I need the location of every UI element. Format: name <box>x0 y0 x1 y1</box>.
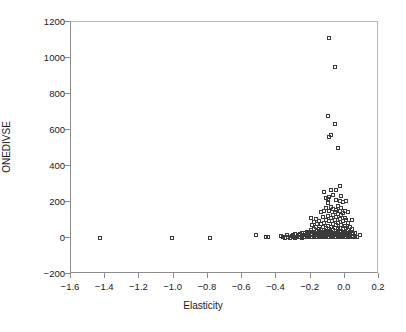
data-point <box>338 184 342 188</box>
data-point <box>98 236 102 240</box>
data-point <box>254 233 258 237</box>
x-axis-tick <box>173 273 174 278</box>
x-axis-tick-label: −1.0 <box>163 281 182 292</box>
y-axis-tick-label: 0 <box>25 232 65 243</box>
y-axis-tick-label: 400 <box>25 160 65 171</box>
x-axis-tick-label: −0.8 <box>197 281 216 292</box>
y-axis-tick-label: 1200 <box>25 16 65 27</box>
data-point <box>358 233 362 237</box>
y-axis-tick <box>65 129 70 130</box>
plot-area <box>70 21 378 273</box>
y-axis-tick <box>65 57 70 58</box>
y-axis-tick <box>65 201 70 202</box>
y-axis-title: ONEDIVSE <box>1 121 12 173</box>
y-axis-tick <box>65 165 70 166</box>
x-axis-title: Elasticity <box>0 300 406 311</box>
data-point <box>170 236 174 240</box>
data-point <box>350 218 354 222</box>
data-point <box>333 122 337 126</box>
y-axis-tick-label: 1000 <box>25 52 65 63</box>
data-point <box>346 210 350 214</box>
scatter-plot-figure: ONEDIVSE Elasticity −2000200400600800100… <box>0 0 406 332</box>
y-axis-tick-label: 600 <box>25 124 65 135</box>
data-point <box>334 188 338 192</box>
data-point <box>326 114 330 118</box>
x-axis-tick-label: −1.4 <box>95 281 114 292</box>
x-axis-tick <box>310 273 311 278</box>
y-axis-tick <box>65 93 70 94</box>
y-axis-tick-label: −200 <box>25 268 65 279</box>
data-point <box>339 194 343 198</box>
data-point <box>322 190 326 194</box>
data-point <box>331 193 335 197</box>
x-axis-tick <box>70 273 71 278</box>
data-point <box>336 146 340 150</box>
y-axis-tick <box>65 21 70 22</box>
y-axis-tick <box>65 237 70 238</box>
data-points-layer <box>71 22 377 272</box>
x-axis-tick-label: 0.0 <box>337 281 350 292</box>
x-axis-tick-label: −0.2 <box>300 281 319 292</box>
data-point <box>329 133 333 137</box>
x-axis-tick <box>104 273 105 278</box>
x-axis-tick <box>344 273 345 278</box>
x-axis-tick-label: −1.2 <box>129 281 148 292</box>
x-axis-tick-label: −0.4 <box>266 281 285 292</box>
x-axis-tick <box>138 273 139 278</box>
y-axis-tick-label: 200 <box>25 196 65 207</box>
data-point <box>327 36 331 40</box>
x-axis-tick-label: −0.6 <box>232 281 251 292</box>
x-axis-tick <box>275 273 276 278</box>
data-point <box>329 188 333 192</box>
data-point <box>344 199 348 203</box>
x-axis-tick-label: −1.6 <box>61 281 80 292</box>
data-point <box>266 235 270 239</box>
y-axis-tick-label: 800 <box>25 88 65 99</box>
x-axis-tick <box>207 273 208 278</box>
data-point <box>333 65 337 69</box>
data-point <box>208 236 212 240</box>
x-axis-tick <box>241 273 242 278</box>
x-axis-tick-label: 0.2 <box>371 281 384 292</box>
x-axis-tick <box>378 273 379 278</box>
